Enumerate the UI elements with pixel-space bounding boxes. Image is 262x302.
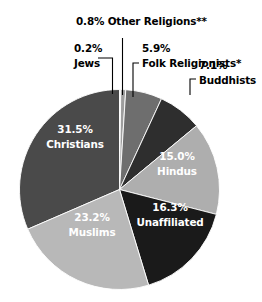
label-folk-religionists-percent: 5.9% xyxy=(142,42,171,54)
pie-chart-svg: 0.8% Other Religions** 0.2% Jews 5.9% Fo… xyxy=(0,0,262,302)
label-muslims-name: Muslims xyxy=(68,226,115,238)
label-buddhists-name: Buddhists xyxy=(199,74,256,86)
label-other-religions: 0.8% Other Religions** xyxy=(76,15,208,27)
label-unaffiliated-percent: 16.3% xyxy=(152,201,188,213)
label-unaffiliated-name: Unaffiliated xyxy=(136,216,203,228)
label-muslims-percent: 23.2% xyxy=(74,211,110,223)
label-hindus-percent: 15.0% xyxy=(159,150,195,162)
label-christians-name: Christians xyxy=(46,138,104,150)
label-buddhists-percent: 7.1% xyxy=(199,59,228,71)
pie-slices-group xyxy=(19,90,219,290)
label-jews-name: Jews xyxy=(73,57,100,69)
leader-line-buddhists xyxy=(190,79,196,95)
pie-chart-figure: 0.8% Other Religions** 0.2% Jews 5.9% Fo… xyxy=(0,0,262,302)
label-hindus-name: Hindus xyxy=(157,165,197,177)
leader-line-jews xyxy=(98,58,113,94)
label-jews-percent: 0.2% xyxy=(74,42,103,54)
outside-labels-group: 0.8% Other Religions** 0.2% Jews 5.9% Fo… xyxy=(73,15,256,86)
label-christians-percent: 31.5% xyxy=(57,123,93,135)
